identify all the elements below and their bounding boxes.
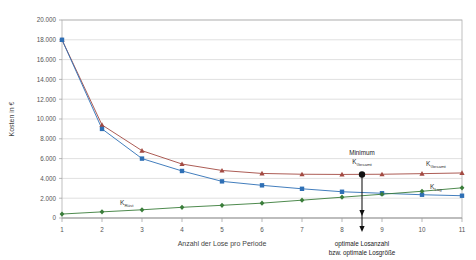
chart-canvas: 20.00018.00016.00014.00012.00010.0008.00… — [0, 0, 476, 260]
y-tick-label: 18.000 — [37, 36, 57, 43]
x-tick-label: 9 — [380, 226, 384, 233]
data-point-k-lag — [180, 169, 184, 173]
x-tick-label: 6 — [260, 226, 264, 233]
x-tick-label: 4 — [180, 226, 184, 233]
optimal-lot-note-line1: optimale Losanzahl — [335, 240, 389, 248]
y-tick-label: 6.000 — [40, 155, 56, 162]
data-point-k-lag — [220, 179, 224, 183]
x-tick-label: 10 — [418, 226, 426, 233]
y-tick-label: 20.000 — [37, 16, 57, 23]
x-tick-label: 5 — [220, 226, 224, 233]
minimum-point-marker — [359, 171, 365, 177]
data-point-k-lag — [100, 127, 104, 131]
y-axis-title: Kosten in € — [8, 101, 15, 136]
data-point-k-lag — [140, 156, 144, 160]
data-point-k-lag — [460, 194, 464, 198]
x-tick-label: 3 — [140, 226, 144, 233]
data-point-k-lag — [300, 187, 304, 191]
y-tick-label: 0 — [52, 214, 56, 221]
y-tick-label: 14.000 — [37, 76, 57, 83]
x-axis-title: Anzahl der Lose pro Periode — [178, 240, 267, 248]
x-tick-label: 8 — [340, 226, 344, 233]
x-tick-label: 2 — [100, 226, 104, 233]
x-tick-label: 1 — [60, 226, 64, 233]
data-point-k-lag — [340, 190, 344, 194]
y-tick-label: 2.000 — [40, 195, 56, 202]
minimum-annotation-title: Minimum — [349, 149, 375, 156]
chart-background — [0, 0, 476, 260]
y-tick-label: 10.000 — [37, 115, 57, 122]
y-tick-label: 4.000 — [40, 175, 56, 182]
optimal-lot-note-line2: bzw. optimale Losgröße — [329, 249, 396, 257]
y-tick-label: 16.000 — [37, 56, 57, 63]
x-tick-label: 7 — [300, 226, 304, 233]
x-tick-label: 11 — [459, 226, 466, 233]
y-tick-label: 8.000 — [40, 135, 56, 142]
y-tick-label: 12.000 — [37, 96, 57, 103]
cost-lot-size-chart: 20.00018.00016.00014.00012.00010.0008.00… — [0, 0, 476, 260]
data-point-k-lag — [60, 38, 64, 42]
data-point-k-lag — [260, 183, 264, 187]
